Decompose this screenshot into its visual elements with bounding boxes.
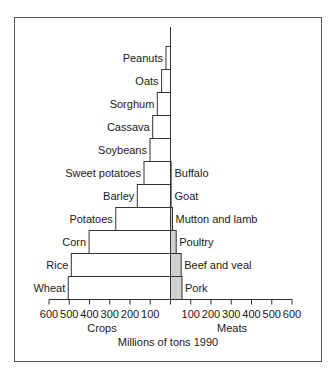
crop-label: Sweet potatoes	[65, 167, 141, 179]
meat-bar-pork	[171, 277, 183, 300]
x-tick-label-right: 500	[263, 308, 281, 320]
meat-label: Pork	[185, 282, 208, 294]
meats-bars	[171, 162, 183, 300]
crop-bar-wheat	[68, 277, 170, 300]
meat-bar-beef-and-veal	[171, 254, 182, 277]
crop-bar-soybeans	[150, 139, 171, 162]
crop-label: Soybeans	[98, 144, 147, 156]
meat-label: Buffalo	[175, 167, 209, 179]
crop-label: Cassava	[107, 121, 151, 133]
meats-axis-label: Meats	[217, 322, 247, 334]
crop-bar-sweet-potatoes	[144, 162, 171, 185]
crop-label: Rice	[46, 259, 68, 271]
meat-label: Poultry	[179, 236, 214, 248]
crop-bar-corn	[89, 231, 170, 254]
meat-bar-poultry	[171, 231, 177, 254]
x-tick-label-right: 600	[283, 308, 301, 320]
x-tick-label-right: 400	[242, 308, 260, 320]
crop-label: Potatoes	[69, 213, 113, 225]
x-tick-label-left: 100	[141, 308, 159, 320]
x-tick-label-right: 200	[202, 308, 220, 320]
x-tick-label-left: 300	[101, 308, 119, 320]
x-tick-label-right: 300	[222, 308, 240, 320]
crop-bar-sorghum	[157, 93, 170, 116]
crop-bar-peanuts	[166, 47, 171, 70]
x-axis-tick-labels: 600500400300200100100200300400500600	[40, 308, 301, 320]
crop-label: Oats	[135, 75, 159, 87]
meats-labels: BuffaloGoatMutton and lambPoultryBeef an…	[175, 167, 258, 294]
crop-label: Corn	[62, 236, 86, 248]
x-tick-label-left: 600	[40, 308, 58, 320]
chart-title: Millions of tons 1990	[118, 336, 218, 348]
crop-bar-rice	[71, 254, 170, 277]
crop-bar-potatoes	[116, 208, 171, 231]
chart: PeanutsOatsSorghumCassavaSoybeansSweet p…	[0, 0, 333, 374]
meat-label: Mutton and lamb	[176, 213, 258, 225]
x-tick-label-left: 500	[60, 308, 78, 320]
crops-axis-label: Crops	[87, 322, 117, 334]
x-tick-label-right: 100	[182, 308, 200, 320]
crop-bar-cassava	[153, 116, 171, 139]
crop-bar-oats	[162, 70, 171, 93]
meat-label: Beef and veal	[184, 259, 251, 271]
x-tick-label-left: 400	[80, 308, 98, 320]
crop-label: Barley	[103, 190, 135, 202]
meat-label: Goat	[175, 190, 199, 202]
crop-label: Peanuts	[123, 52, 164, 64]
crop-bar-barley	[137, 185, 170, 208]
x-tick-label-left: 200	[121, 308, 139, 320]
x-axis-ticks	[49, 300, 292, 305]
crop-label: Sorghum	[110, 98, 155, 110]
crop-label: Wheat	[33, 282, 65, 294]
